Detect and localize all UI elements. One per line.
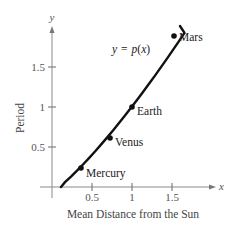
y-axis-variable: y [49,11,55,23]
mars-label: Mars [179,31,203,43]
venus-label: Venus [115,136,144,148]
eq-close: ) [146,43,150,56]
x-tick-label: 1 [129,191,135,203]
earth-point [129,104,135,110]
venus-point [107,135,113,141]
x-tick-label: 1.5 [165,191,179,203]
curve-equation-label: y=p(x) [111,43,150,56]
y-tick-label: 1 [40,101,46,113]
eq-equals: = [121,43,128,55]
x-axis-variable: x [218,180,224,192]
x-axis-arrow-icon [209,185,216,190]
mercury-point [78,165,84,171]
eq-y: y [111,43,118,56]
kepler-period-chart: y x 0.5 1 1.5 0.5 1 1.5 Period Mean Dist… [0,0,236,230]
x-tick-label: 0.5 [85,191,99,203]
earth-label: Earth [137,105,162,117]
mars-point [171,33,177,39]
x-ticks: 0.5 1 1.5 [85,183,179,203]
y-tick-label: 1.5 [31,61,45,73]
y-axis-arrow-icon [50,26,55,33]
mercury-label: Mercury [86,167,126,180]
x-axis-title: Mean Distance from the Sun [67,208,199,220]
y-tick-label: 0.5 [31,141,45,153]
y-axis-title: Period [14,103,26,133]
